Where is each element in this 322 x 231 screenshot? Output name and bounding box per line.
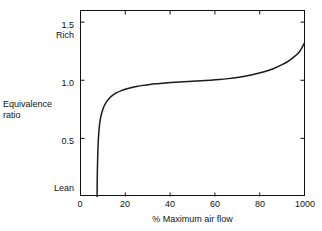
x-tick-label-80: 80 [240, 199, 280, 209]
x-tick-label-40: 40 [150, 199, 190, 209]
annotation-lean: Lean [28, 183, 74, 193]
x-axis-title: % Maximum air flow [80, 214, 305, 224]
y-tick-label-1-5: 1.5 [40, 20, 74, 30]
y-tick-label-1-0: 1.0 [40, 78, 74, 88]
y-axis-title-line2: ratio [3, 110, 52, 121]
y-tick-label-0-5: 0.5 [40, 136, 74, 146]
figure-canvas: 1.5 1.0 0.5 Rich Lean Equivalence ratio … [0, 0, 322, 231]
x-tick-label-20: 20 [105, 199, 145, 209]
plot-frame [80, 10, 305, 196]
x-tick-label-100: 1000 [285, 199, 322, 209]
x-tick-label-60: 60 [195, 199, 235, 209]
x-tick-label-0: 0 [60, 199, 100, 209]
y-axis-title-line1: Equivalence [3, 99, 52, 110]
y-axis-title: Equivalence ratio [3, 99, 52, 121]
annotation-rich: Rich [28, 30, 74, 40]
